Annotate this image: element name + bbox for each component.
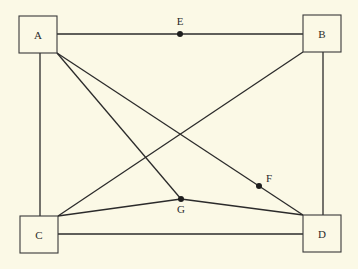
point-f-label: F [266, 172, 272, 184]
point-e-label: E [177, 15, 184, 27]
node-a-label: A [34, 29, 42, 41]
node-d-label: D [318, 228, 326, 240]
node-b: B [303, 15, 341, 52]
node-d: D [303, 215, 341, 252]
edge-a-g [57, 53, 181, 199]
edge-c-g [58, 199, 181, 216]
point-e: E [177, 15, 184, 37]
node-b-label: B [318, 28, 325, 40]
node-a: A [19, 16, 57, 53]
point-f: F [256, 172, 272, 189]
edge-g-d [181, 199, 303, 215]
point-g: G [177, 196, 185, 215]
node-c-label: C [35, 229, 42, 241]
point-g-label: G [177, 203, 185, 215]
node-c: C [20, 216, 58, 253]
graph-diagram: A B C D E F G [0, 0, 358, 269]
